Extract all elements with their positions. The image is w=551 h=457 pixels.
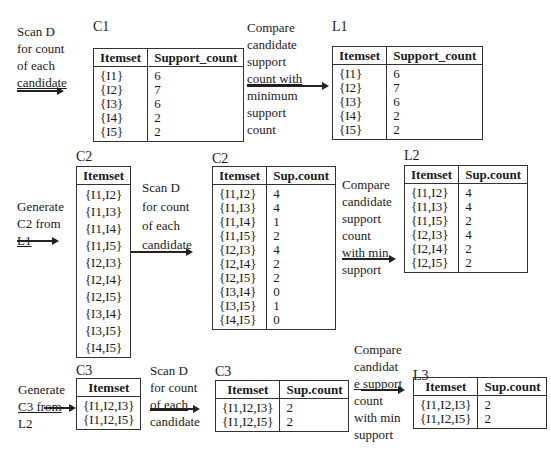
- table-row: {I2}7: [333, 81, 483, 95]
- l3-table: ItemsetSup.count {I1,I2,I3}2 {I1,I2,I5}2: [413, 377, 547, 429]
- arrow-right-icon: [361, 389, 403, 391]
- table-row: {I1,I4}: [77, 219, 131, 236]
- table-row: {I1}6: [333, 65, 483, 82]
- table-row: {I1,I3}4: [213, 201, 336, 215]
- table-row: {I1,I2}4: [213, 185, 336, 202]
- table-row: {I2,I4}: [77, 270, 131, 287]
- c2-candidates-table: Itemset {I1,I2} {I1,I3} {I1,I4} {I1,I5} …: [76, 166, 131, 358]
- table-row: {I3}6: [333, 95, 483, 109]
- c3-candidates-table: Itemset {I1,I2,I3} {I1,I2,I5}: [76, 378, 141, 430]
- arrow-right-icon: [17, 240, 57, 242]
- table-row: {I4,I5}: [77, 338, 131, 358]
- compare-note-3: Compare candidat e support count with mi…: [354, 341, 402, 443]
- l2-label: L2: [404, 148, 420, 164]
- table-row: {I2,I5}2: [213, 271, 336, 285]
- table-row: {I3}6: [94, 97, 244, 111]
- table-row: {I3,I4}0: [213, 285, 336, 299]
- table-row: {I4,I5}0: [213, 313, 336, 330]
- table-row: {I2}7: [94, 83, 244, 97]
- table-row: {I1,I2,I5}2: [216, 415, 349, 432]
- table-row: {I1,I5}: [77, 236, 131, 253]
- c2-candidates-label: C2: [76, 149, 92, 165]
- table-row: {I1,I4}1: [213, 215, 336, 229]
- table-row: {I1,I2}4: [405, 184, 528, 201]
- c1-label: C1: [93, 19, 109, 35]
- compare-note-1: Compare candidate support count with min…: [247, 19, 302, 138]
- table-row: {I1,I2,I3}2: [414, 396, 547, 413]
- arrow-right-icon: [247, 85, 327, 87]
- arrow-right-icon: [342, 258, 394, 260]
- scan-d-note-2: Scan D for count of each candidate: [142, 178, 192, 254]
- table-row: {I1,I2,I5}2: [414, 412, 547, 429]
- table-row: {I4}2: [333, 109, 483, 123]
- table-row: {I5}2: [94, 125, 244, 142]
- table-row: {I2,I5}2: [405, 256, 528, 273]
- table-row: {I2,I3}4: [405, 228, 528, 242]
- c3-candidates-label: C3: [76, 363, 92, 379]
- table-row: {I1,I2,I3}: [77, 397, 141, 414]
- c1-table: ItemsetSupport_count {I1}6 {I2}7 {I3}6 {…: [93, 48, 244, 142]
- c3-counts-table: ItemsetSup.count {I1,I2,I3}2 {I1,I2,I5}2: [215, 380, 349, 432]
- table-row: {I3,I5}: [77, 321, 131, 338]
- table-row: {I3,I5}1: [213, 299, 336, 313]
- compare-note-2: Compare candidate support count with min…: [342, 176, 392, 278]
- arrow-right-icon: [131, 251, 191, 253]
- table-row: {I1,I2}: [77, 185, 131, 203]
- arrow-right-icon: [17, 90, 62, 92]
- table-row: {I2,I5}: [77, 287, 131, 304]
- table-row: {I1,I3}4: [405, 200, 528, 214]
- table-row: {I1}6: [94, 67, 244, 84]
- table-row: {I4}2: [94, 111, 244, 125]
- table-row: {I2,I4}2: [213, 257, 336, 271]
- c2-counts-table: ItemsetSup.count {I1,I2}4 {I1,I3}4 {I1,I…: [212, 166, 336, 330]
- table-row: {I1,I5}2: [213, 229, 336, 243]
- scan-d-note-3: Scan D for count of each candidate: [150, 362, 200, 430]
- table-row: {I1,I2,I5}: [77, 413, 141, 430]
- l1-table: ItemsetSupport_count {I1}6 {I2}7 {I3}6 {…: [332, 46, 483, 140]
- table-row: {I5}2: [333, 123, 483, 140]
- table-row: {I1,I3}: [77, 202, 131, 219]
- table-row: {I1,I2,I3}2: [216, 399, 349, 416]
- c2-counts-label: C2: [212, 151, 228, 167]
- l1-label: L1: [332, 19, 348, 35]
- table-row: {I2,I3}4: [213, 243, 336, 257]
- table-row: {I1,I5}2: [405, 214, 528, 228]
- table-row: {I2,I4}2: [405, 242, 528, 256]
- arrow-right-icon: [44, 407, 74, 409]
- l2-table: ItemsetSup.count {I1,I2}4 {I1,I3}4 {I1,I…: [404, 165, 528, 273]
- scan-d-note-1: Scan D for count of each candidate: [17, 23, 67, 91]
- table-row: {I3,I4}: [77, 304, 131, 321]
- c3-counts-label: C3: [215, 364, 231, 380]
- table-row: {I2,I3}: [77, 253, 131, 270]
- arrow-right-icon: [150, 408, 198, 410]
